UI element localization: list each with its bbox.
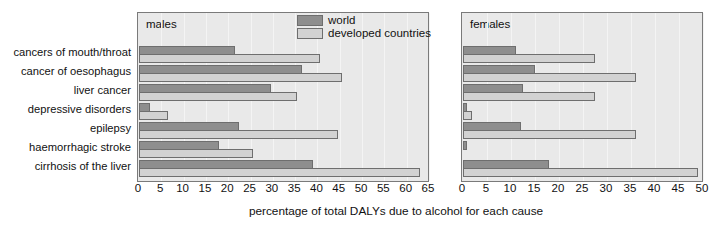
x-tick-label: 65 — [422, 182, 435, 194]
x-tick-label: 50 — [355, 182, 368, 194]
bar-developed — [139, 92, 297, 101]
x-tick-label: 25 — [243, 182, 256, 194]
category-label: haemorrhagic stroke — [29, 141, 131, 153]
category-axis-labels: cancers of mouth/throatcancer of oesopha… — [0, 46, 134, 179]
x-tick-label: 45 — [332, 182, 345, 194]
bar-developed — [463, 73, 636, 82]
bar-developed — [463, 130, 636, 139]
x-tick-label: 35 — [624, 182, 637, 194]
x-tick-label: 20 — [552, 182, 565, 194]
x-tick-label: 45 — [672, 182, 685, 194]
panel-females: females — [461, 12, 703, 182]
x-tick-label: 20 — [221, 182, 234, 194]
x-tick-label: 15 — [528, 182, 541, 194]
category-label: cancers of mouth/throat — [13, 46, 131, 58]
legend-label-world: world — [328, 14, 355, 26]
x-axis-title-text: percentage of total DALYs due to alcohol… — [249, 204, 543, 218]
x-tick-label: 40 — [310, 182, 323, 194]
bar-developed — [139, 149, 253, 158]
x-tick-label: 35 — [288, 182, 301, 194]
bar-world — [463, 141, 467, 150]
x-tick-label: 55 — [377, 182, 390, 194]
bar-developed — [463, 54, 595, 63]
x-tick-label: 5 — [157, 182, 163, 194]
x-tick-label: 10 — [176, 182, 189, 194]
x-tick-label: 25 — [576, 182, 589, 194]
x-tick-label: 40 — [648, 182, 661, 194]
category-label: depressive disorders — [28, 103, 131, 115]
x-tick-label: 60 — [399, 182, 412, 194]
bar-developed — [139, 130, 338, 139]
bar-developed — [139, 54, 320, 63]
bar-developed — [139, 168, 420, 177]
category-label: cirrhosis of the liver — [35, 160, 131, 172]
bar-developed — [463, 168, 698, 177]
gridline — [655, 13, 656, 181]
x-tick-label: 15 — [199, 182, 212, 194]
bar-developed — [463, 92, 595, 101]
x-axis-females: 05101520253035404550 — [461, 182, 703, 198]
gridline — [631, 13, 632, 181]
x-axis-title: percentage of total DALYs due to alcohol… — [0, 204, 718, 218]
chart-legend: world developed countries — [297, 14, 429, 42]
legend-swatch-world-icon — [297, 15, 323, 26]
gridline — [703, 13, 704, 181]
x-tick-label: 0 — [135, 182, 141, 194]
category-label: liver cancer — [74, 84, 131, 96]
category-label: epilepsy — [90, 122, 131, 134]
x-tick-label: 10 — [504, 182, 517, 194]
category-label: cancer of oesophagus — [21, 65, 131, 77]
gridline — [607, 13, 608, 181]
bar-developed — [139, 111, 168, 120]
x-tick-label: 0 — [459, 182, 465, 194]
x-axis-males: 05101520253035404550556065 — [137, 182, 429, 198]
x-tick-label: 5 — [483, 182, 489, 194]
x-tick-label: 50 — [696, 182, 709, 194]
x-tick-label: 30 — [600, 182, 613, 194]
legend-swatch-developed-icon — [297, 28, 323, 39]
x-tick-label: 30 — [265, 182, 278, 194]
legend-label-developed: developed countries — [328, 27, 431, 39]
chart-root: cancers of mouth/throatcancer of oesopha… — [0, 0, 718, 231]
gridline — [679, 13, 680, 181]
bar-developed — [463, 111, 472, 120]
panel-females-title: females — [470, 18, 510, 30]
bar-developed — [139, 73, 342, 82]
